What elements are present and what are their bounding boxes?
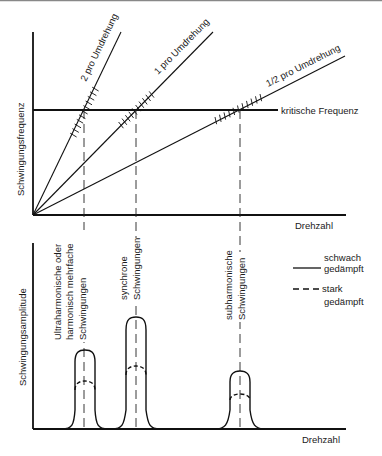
- svg-text:Schwingungen: Schwingungen: [77, 278, 88, 340]
- svg-text:gedämpft: gedämpft: [324, 263, 364, 274]
- peak-ultraharmonic-solid: [33, 350, 108, 429]
- svg-text:Schwingungen: Schwingungen: [131, 238, 142, 300]
- svg-text:harmonisch mehrfache: harmonisch mehrfache: [64, 243, 75, 340]
- critical-frequency-label: kritische Frequenz: [281, 105, 359, 116]
- upper-y-axis-label: Schwingungsfrequenz: [15, 102, 26, 196]
- svg-text:synchrone: synchrone: [118, 256, 129, 300]
- svg-text:Ultraharmonische oder: Ultraharmonische oder: [52, 244, 63, 340]
- svg-text:stark: stark: [322, 283, 343, 294]
- peak-label-subharmonic: subharmonische Schwingungen: [223, 250, 247, 322]
- peak-ultraharmonic-dashed: [75, 381, 95, 390]
- svg-text:schwach: schwach: [324, 252, 361, 263]
- peak-label-ultraharmonic: Ultraharmonische oder harmonisch mehrfac…: [50, 230, 88, 342]
- ray-1-label: 1 pro Umdrehung: [152, 16, 212, 76]
- ray-2-per-rev: [33, 32, 121, 215]
- svg-text:gedämpft: gedämpft: [324, 296, 364, 307]
- legend: schwach gedämpft stark gedämpft: [293, 252, 364, 307]
- lower-y-axis-label: Schwingungsamplitude: [17, 288, 28, 386]
- upper-x-axis-label: Drehzahl: [295, 220, 333, 231]
- lower-chart: Schwingungsamplitude Drehzahl Ultraharmo…: [17, 230, 364, 445]
- lower-x-axis-label: Drehzahl: [302, 434, 340, 445]
- legend-item-strongly-damped: stark gedämpft: [293, 283, 364, 307]
- campbell-diagram: Schwingungsfrequenz Drehzahl kritische F…: [0, 0, 382, 456]
- svg-text:subharmonische: subharmonische: [223, 250, 234, 320]
- upper-chart: Schwingungsfrequenz Drehzahl kritische F…: [15, 11, 359, 231]
- svg-text:Schwingungen: Schwingungen: [236, 258, 247, 320]
- peak-label-synchronous: synchrone Schwingungen: [118, 238, 142, 302]
- peak-synchronous-solid: [108, 317, 160, 429]
- ray-1-per-rev: [33, 32, 213, 215]
- peak-subharmonic-solid: [160, 371, 265, 429]
- legend-item-weakly-damped: schwach gedämpft: [293, 252, 364, 274]
- ray-half-label: 1/2 pro Umdrehung: [264, 42, 342, 89]
